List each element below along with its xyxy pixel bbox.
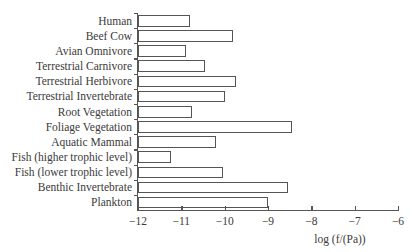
y-tick — [134, 165, 138, 166]
category-label: Aquatic Mammal — [51, 135, 132, 149]
x-tick — [311, 206, 312, 210]
category-label: Terrestrial Herbivore — [35, 74, 132, 88]
x-tick — [355, 206, 356, 210]
y-tick — [134, 195, 138, 196]
x-tick-label: −7 — [340, 215, 370, 227]
bar — [138, 151, 171, 163]
x-tick — [268, 206, 269, 210]
y-tick — [134, 43, 138, 44]
bar — [138, 91, 225, 103]
x-axis-label: log (f/(Pa)) — [280, 233, 400, 245]
bar — [138, 136, 216, 148]
x-tick-label: −9 — [253, 215, 283, 227]
x-tick — [225, 206, 226, 210]
y-tick — [134, 13, 138, 14]
bar — [138, 30, 233, 42]
y-tick — [134, 104, 138, 105]
category-label: Terrestrial Invertebrate — [26, 89, 132, 103]
horizontal-bar-chart: −12−11−10−9−8−7−6 log (f/(Pa)) HumanBeef… — [0, 0, 414, 252]
y-tick — [134, 89, 138, 90]
x-tick-label: −8 — [296, 215, 326, 227]
bar — [138, 76, 236, 88]
y-tick — [134, 134, 138, 135]
x-tick-label: −6 — [383, 215, 413, 227]
bar — [138, 182, 288, 194]
x-tick — [138, 206, 139, 210]
x-tick — [181, 206, 182, 210]
category-label: Terrestrial Carnivore — [36, 59, 132, 73]
category-label: Fish (higher trophic level) — [12, 150, 132, 164]
x-tick — [398, 206, 399, 210]
bar — [138, 121, 292, 133]
x-tick-label: −10 — [210, 215, 240, 227]
x-tick-label: −12 — [123, 215, 153, 227]
category-label: Beef Cow — [86, 29, 132, 43]
y-tick — [134, 180, 138, 181]
bar — [138, 45, 186, 57]
bar — [138, 15, 190, 27]
category-label: Root Vegetation — [58, 105, 132, 119]
bar — [138, 60, 205, 72]
category-label: Human — [98, 14, 132, 28]
category-label: Avian Omnivore — [55, 44, 132, 58]
bar — [138, 167, 223, 179]
y-tick — [134, 119, 138, 120]
y-tick — [134, 74, 138, 75]
category-label: Benthic Invertebrate — [38, 180, 132, 194]
y-tick — [134, 58, 138, 59]
category-label: Foliage Vegetation — [46, 120, 132, 134]
category-label: Fish (lower trophic level) — [15, 165, 132, 179]
bar — [138, 106, 192, 118]
x-tick-label: −11 — [166, 215, 196, 227]
x-axis-line — [137, 210, 399, 211]
y-tick — [134, 28, 138, 29]
y-tick — [134, 149, 138, 150]
bar — [138, 197, 268, 209]
category-label: Plankton — [91, 195, 132, 209]
